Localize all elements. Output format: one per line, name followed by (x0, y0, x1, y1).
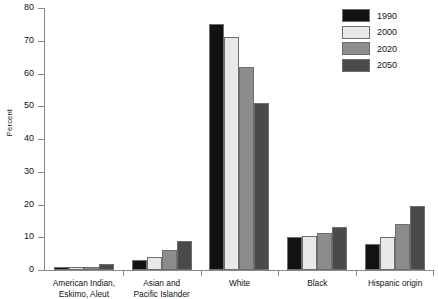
y-axis-tick (38, 41, 45, 42)
y-axis-tick-label: 10 (0, 231, 34, 241)
bar-group-bars (45, 8, 123, 270)
legend-swatch (342, 9, 370, 22)
bar (99, 264, 114, 270)
legend-item[interactable]: 2000 (342, 25, 434, 40)
y-axis-tick (38, 106, 45, 107)
y-axis-tick (38, 270, 45, 271)
bar (365, 244, 380, 270)
y-axis-title: Percent (5, 88, 14, 158)
bar (177, 241, 192, 270)
x-axis-category-line: Hispanic origin (344, 278, 438, 289)
bar (147, 257, 162, 270)
y-axis-tick-label: 80 (0, 2, 34, 12)
bar (239, 67, 254, 270)
x-axis-category-line: Pacific Islander (111, 289, 213, 299)
x-axis-tick (201, 270, 202, 276)
bar-chart: Percent 01020304050607080 American India… (0, 0, 438, 299)
y-axis-tick-label: 60 (0, 68, 34, 78)
bar-group-bars (201, 8, 279, 270)
bar (209, 24, 224, 270)
legend-label: 1990 (377, 11, 397, 21)
bar (317, 233, 332, 270)
legend-item[interactable]: 1990 (342, 8, 434, 23)
legend-swatch (342, 42, 370, 55)
bar (302, 236, 317, 270)
x-axis-tick (123, 270, 124, 276)
y-axis-tick (38, 172, 45, 173)
bar (224, 37, 239, 270)
y-axis-tick-label: 50 (0, 100, 34, 110)
bar-group-bars (123, 8, 201, 270)
bar (380, 237, 395, 270)
bar-group (45, 8, 123, 270)
y-axis-tick-label: 0 (0, 264, 34, 274)
bar (162, 250, 177, 270)
bar (84, 267, 99, 270)
bar (332, 227, 347, 270)
legend-label: 2020 (377, 44, 397, 54)
x-axis-tick (278, 270, 279, 276)
legend: 1990200020202050 (342, 8, 434, 74)
y-axis-tick-label: 40 (0, 133, 34, 143)
y-axis-tick-label: 70 (0, 35, 34, 45)
y-axis-tick (38, 237, 45, 238)
legend-label: 2050 (377, 60, 397, 70)
bar (395, 224, 410, 270)
bar (287, 237, 302, 270)
legend-label: 2000 (377, 27, 397, 37)
bar-group (123, 8, 201, 270)
bar (410, 206, 425, 270)
bar-group (201, 8, 279, 270)
bar (54, 267, 69, 270)
y-axis-tick (38, 139, 45, 140)
x-axis-tick (433, 270, 434, 276)
bar (132, 260, 147, 270)
legend-swatch (342, 26, 370, 39)
y-axis-tick-label: 20 (0, 199, 34, 209)
y-axis-tick-label: 30 (0, 166, 34, 176)
bar (254, 103, 269, 270)
legend-swatch (342, 59, 370, 72)
x-axis-line (44, 270, 434, 271)
x-axis-category-label: Hispanic origin (344, 278, 438, 289)
y-axis-tick (38, 205, 45, 206)
y-axis-tick (38, 74, 45, 75)
legend-item[interactable]: 2050 (342, 58, 434, 73)
legend-item[interactable]: 2020 (342, 41, 434, 56)
y-axis-tick (38, 8, 45, 9)
x-axis-tick (356, 270, 357, 276)
bar (69, 267, 84, 270)
